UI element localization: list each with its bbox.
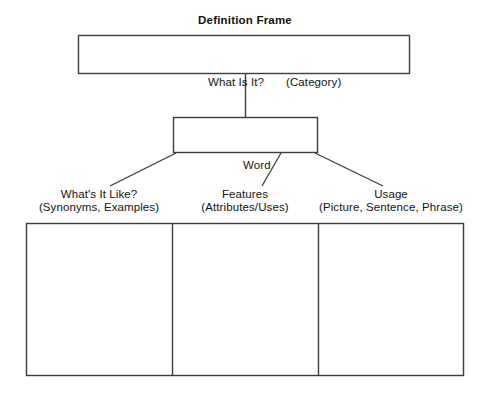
label-word: Word bbox=[243, 159, 271, 171]
column-heading-3-title: Usage bbox=[319, 188, 463, 200]
connector-word-to-column-3 bbox=[315, 153, 383, 186]
label-category: (Category) bbox=[286, 76, 341, 88]
column-heading-1-title: What's It Like? bbox=[39, 188, 159, 200]
column-heading-3-subtitle: (Picture, Sentence, Phrase) bbox=[319, 201, 463, 213]
column-heading-2: Features (Attributes/Uses) bbox=[201, 188, 288, 213]
page-title: Definition Frame bbox=[198, 14, 292, 26]
column-heading-1-subtitle: (Synonyms, Examples) bbox=[39, 201, 159, 213]
column-heading-3: Usage (Picture, Sentence, Phrase) bbox=[319, 188, 463, 213]
connector-word-to-column-1 bbox=[110, 153, 176, 186]
column-heading-2-subtitle: (Attributes/Uses) bbox=[201, 201, 288, 213]
column-heading-1: What's It Like? (Synonyms, Examples) bbox=[39, 188, 159, 213]
definition-box[interactable] bbox=[79, 36, 410, 74]
answer-area-box bbox=[27, 224, 464, 376]
column-heading-2-title: Features bbox=[201, 188, 288, 200]
label-what-is-it: What Is It? bbox=[208, 76, 264, 88]
definition-frame-worksheet: Definition Frame What Is It? (Category) … bbox=[0, 0, 491, 399]
word-box[interactable] bbox=[174, 118, 318, 153]
